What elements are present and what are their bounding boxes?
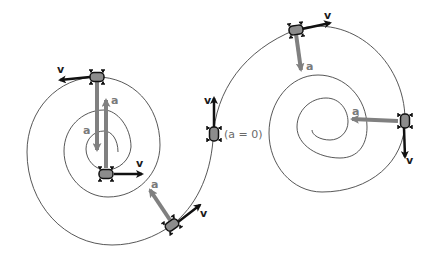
spiral-motion-diagram: v a v a v a v (a = 0) v a v a [0, 0, 436, 264]
velocity-arrow [60, 77, 90, 80]
car-left-top: v a [57, 63, 105, 150]
car-icon [98, 167, 114, 181]
acceleration-arrow [150, 190, 170, 220]
velocity-label: v [204, 94, 212, 107]
acceleration-label: a [306, 60, 313, 73]
velocity-arrow [302, 23, 330, 29]
car-icon [161, 215, 182, 236]
car-right-side: v a [352, 105, 414, 167]
acceleration-label: a [111, 94, 118, 107]
car-icon [207, 126, 221, 142]
car-left-bottom-right: v a [150, 178, 208, 235]
acceleration-label: a [151, 178, 158, 191]
zero-acceleration-label: (a = 0) [224, 128, 263, 141]
car-left-center: v a [98, 94, 144, 181]
car-icon [398, 113, 412, 129]
velocity-label: v [324, 9, 332, 22]
velocity-label: v [57, 63, 65, 76]
car-inflection: v (a = 0) [204, 94, 263, 142]
acceleration-label: a [83, 124, 90, 137]
acceleration-arrow [296, 34, 301, 70]
acceleration-arrow [352, 119, 398, 121]
acceleration-label: a [352, 105, 359, 118]
velocity-label: v [406, 154, 414, 167]
car-right-top: v a [287, 9, 332, 73]
car-icon [89, 70, 105, 84]
velocity-label: v [200, 207, 208, 220]
velocity-arrow [404, 128, 405, 157]
velocity-label: v [136, 157, 144, 170]
